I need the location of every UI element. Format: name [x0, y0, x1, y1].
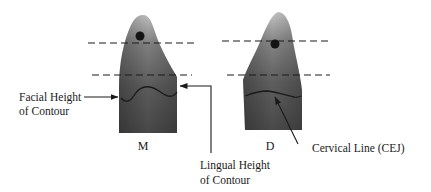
cervical-line-label: Cervical Line (CEJ) — [312, 142, 405, 155]
pulp-horn-dot-mesial — [136, 32, 145, 41]
facial-height-label-line2: of Contour — [19, 105, 69, 117]
tooth-contour-diagram: Facial Height of Contour M D Lingual Hei… — [0, 0, 431, 192]
lingual-height-label-line1: Lingual Height — [200, 159, 271, 172]
facial-height-label-line1: Facial Height — [19, 91, 82, 104]
lingual-height-arrow — [180, 86, 211, 153]
view-label-distal: D — [266, 139, 275, 153]
lingual-height-label-line2: of Contour — [200, 174, 250, 186]
tooth-distal-view — [243, 12, 302, 130]
tooth-mesial-view — [119, 15, 177, 133]
view-label-mesial: M — [138, 139, 149, 153]
